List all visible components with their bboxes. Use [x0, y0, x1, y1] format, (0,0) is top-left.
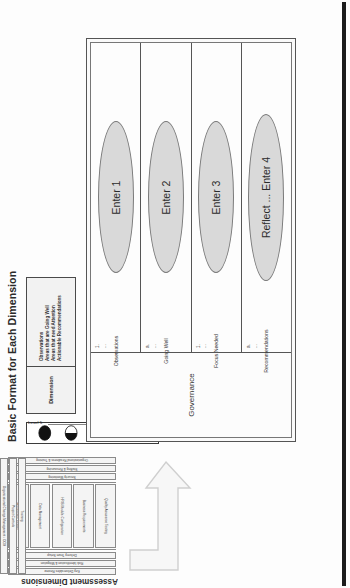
slide-content: Basic Format for Each Dimension Dimensio… — [0, 0, 310, 450]
callout-ellipse: Enter 1 — [98, 122, 134, 274]
slide-region: Basic Format for Each Dimension Dimensio… — [0, 0, 310, 450]
assessment-dimensions-title: Assessment Dimensions — [21, 577, 118, 586]
callout-ellipse: Enter 3 — [198, 122, 234, 274]
row-label: Focus Needed — [213, 320, 219, 382]
table-row: a. ... Recommendations Reflect ... Enter… — [242, 43, 291, 352]
bullet-marker: 1. — [196, 344, 203, 348]
assessment-column: Data Management — [30, 484, 51, 549]
bullet-ellipsis: ... — [152, 344, 159, 348]
table-row: 1. ... Focus Needed Enter 3 — [192, 43, 242, 352]
dimension-matrix: Governance 1. ... Observations — [86, 38, 296, 442]
row-label: Recommendations — [263, 320, 269, 382]
legend-high-label: Level 5 — [28, 420, 42, 425]
row-bullets: a. ... — [145, 344, 159, 348]
format-key-observation-list: Observations Areas that are Going Well A… — [27, 278, 75, 366]
assessment-column: Business Requirements — [74, 484, 95, 549]
callout-text: Reflect ... Enter 4 — [260, 157, 272, 238]
assessment-side-label: Training — [20, 510, 24, 521]
scanned-page: Basic Format for Each Dimension Dimensio… — [0, 0, 350, 588]
format-key-line: Actionable Recommendations — [57, 278, 63, 361]
assessment-side-group: Training Project Controls Organizational… — [0, 458, 26, 574]
row-bullets: 1. ... — [196, 344, 210, 348]
callout-text: Enter 3 — [210, 181, 222, 215]
callout-ellipse: Enter 2 — [148, 122, 184, 274]
table-row: 1. ... Observations Enter 1 — [91, 43, 141, 352]
bullet-ellipsis: ... — [102, 344, 109, 348]
page-spine — [342, 2, 346, 586]
assessment-side-column: Organizational Change Management / OCM — [0, 458, 8, 574]
table-row: a. ... Going Well Enter 2 — [141, 43, 191, 352]
dimension-name: Governance — [187, 373, 196, 417]
dimension-matrix-inner: Governance 1. ... Observations — [90, 42, 292, 438]
assessment-dimensions-region: Assessment Dimensions Key Deliverables R… — [2, 452, 122, 588]
format-key-box: Dimension Observations Areas that are Go… — [26, 277, 76, 414]
bullet-ellipsis: ... — [202, 344, 209, 348]
assessment-dimensions-content: Assessment Dimensions Key Deliverables R… — [2, 452, 122, 588]
assessment-column-label: Data Management — [38, 503, 42, 528]
assessment-side-label: Project Controls — [11, 505, 15, 527]
format-key-line: Areas that are Going Well — [45, 278, 51, 361]
row-callout-wrap: Reflect ... Enter 4 — [248, 43, 284, 352]
dimension-column: Governance — [91, 352, 291, 437]
assessment-column-label: Quality Assurance Testing — [104, 498, 108, 534]
row-bullets: a. ... — [246, 344, 260, 348]
row-bullets: 1. ... — [95, 344, 109, 348]
row-callout-wrap: Enter 3 — [198, 43, 234, 352]
assessment-side-column: Project Controls — [9, 458, 17, 574]
matrix-rows: 1. ... Observations Enter 1 — [91, 43, 291, 352]
page-title: Basic Format for Each Dimension — [6, 271, 18, 442]
bullet-marker: a. — [246, 344, 253, 348]
row-label: Going Well — [163, 320, 169, 382]
bullet-ellipsis: ... — [253, 344, 260, 348]
format-key-line: Areas that need Attention — [51, 278, 57, 361]
callout-text: Enter 1 — [110, 181, 122, 215]
assessment-column-label: HRIS Module Configuration — [60, 497, 64, 535]
assessment-side-label: Organizational Change Management / OCM — [2, 486, 6, 546]
assessment-column: Quality Assurance Testing — [95, 484, 116, 549]
format-key-dimension-label: Dimension — [27, 366, 75, 413]
flow-arrow — [128, 458, 198, 584]
row-callout-wrap: Enter 2 — [148, 43, 184, 352]
callout-text: Enter 2 — [160, 181, 172, 215]
assessment-column-label: Business Requirements — [82, 500, 86, 533]
row-label: Observations — [113, 320, 119, 382]
assessment-side-column: Training — [18, 458, 26, 574]
row-callout-wrap: Enter 1 — [98, 43, 134, 352]
assessment-column: HRIS Module Configuration — [52, 484, 73, 549]
callout-ellipse: Reflect ... Enter 4 — [248, 114, 284, 281]
bullet-marker: 1. — [95, 344, 102, 348]
format-key-line: Observations — [39, 278, 45, 361]
bullet-marker: a. — [145, 344, 152, 348]
